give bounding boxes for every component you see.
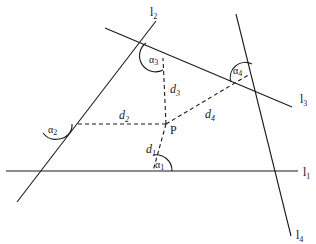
label-d1: d1 xyxy=(146,142,156,158)
line-l4 xyxy=(236,14,291,236)
label-alpha1: α1 xyxy=(155,159,164,172)
segment-d3 xyxy=(163,58,166,124)
label-d4: d4 xyxy=(205,107,215,123)
line-l2 xyxy=(17,21,156,202)
label-d3: d3 xyxy=(170,82,180,98)
label-point-p: P xyxy=(170,123,177,137)
label-alpha2: α2 xyxy=(48,124,57,137)
line-l3 xyxy=(105,28,292,107)
label-l1: l1 xyxy=(303,165,310,181)
label-alpha4: α4 xyxy=(233,65,242,78)
label-d2: d2 xyxy=(119,108,129,124)
label-alpha3: α3 xyxy=(149,54,158,67)
label-l3: l3 xyxy=(300,92,307,108)
label-l4: l4 xyxy=(296,228,303,244)
geometry-diagram: l2 l3 l1 l4 P d1 d2 d3 d4 α1 α2 α3 α4 xyxy=(0,0,316,244)
label-l2: l2 xyxy=(150,5,157,21)
